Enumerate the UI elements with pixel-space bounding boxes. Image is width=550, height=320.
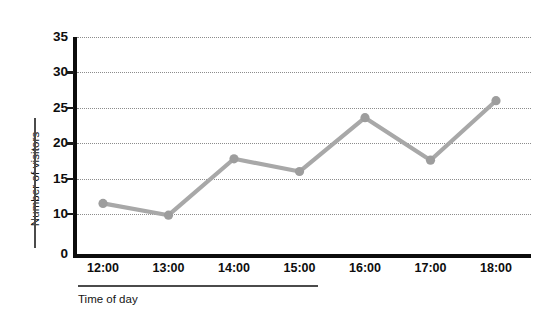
y-tick-label: 10 [34, 207, 68, 221]
x-axis-title: Time of day [78, 293, 138, 305]
x-tick-label: 14:00 [204, 261, 264, 275]
y-tick-label: 30 [34, 65, 68, 79]
data-point-marker [491, 96, 500, 105]
x-tick-label: 16:00 [335, 261, 395, 275]
y-tick-label: 20 [34, 136, 68, 150]
y-tick-mark [66, 71, 74, 73]
x-axis-tick-labels: 12:0013:0014:0015:0016:0017:0018:00 [77, 261, 531, 281]
y-tick-label: 35 [34, 30, 68, 44]
data-point-marker [229, 154, 238, 163]
visitors-line-chart: Number of visitors 0101520253035 12:0013… [0, 0, 550, 320]
y-axis-tick-labels: 0101520253035 [30, 0, 68, 320]
y-tick-mark [66, 107, 74, 109]
y-tick-mark [66, 178, 74, 180]
series-polyline [103, 101, 496, 215]
x-axis-line [73, 254, 531, 258]
x-tick-label: 13:00 [139, 261, 199, 275]
data-point-marker [295, 167, 304, 176]
series-line-visitors [77, 37, 531, 254]
x-axis-title-rule [78, 285, 318, 287]
x-tick-label: 15:00 [270, 261, 330, 275]
y-tick-mark [66, 142, 74, 144]
data-point-marker [98, 199, 107, 208]
data-point-marker [360, 113, 369, 122]
plot-area [77, 37, 531, 254]
y-tick-label: 15 [34, 172, 68, 186]
x-tick-label: 17:00 [401, 261, 461, 275]
x-tick-label: 12:00 [73, 261, 133, 275]
x-tick-label: 18:00 [466, 261, 526, 275]
data-point-marker [426, 156, 435, 165]
y-tick-label: 0 [34, 247, 68, 261]
y-tick-label: 25 [34, 101, 68, 115]
y-tick-mark [66, 213, 74, 215]
data-point-marker [164, 211, 173, 220]
